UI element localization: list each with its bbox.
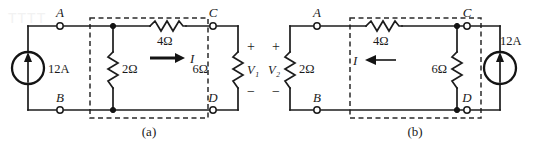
terminal-a-D — [210, 107, 216, 113]
terminal-a-A — [57, 23, 63, 29]
resistor-6ohm-a — [233, 52, 243, 88]
node-label-a-D: D — [207, 90, 218, 105]
junction-a-bottom — [110, 107, 115, 112]
voltage-plus-b: + — [272, 39, 280, 54]
circuit-diagram-canvas: 12A 2Ω 4Ω I 6Ω + V₁ — [0, 0, 534, 150]
junction-a-top — [110, 23, 115, 28]
node-label-b-B: B — [313, 90, 321, 105]
resistor-4ohm-label-a: 4Ω — [157, 34, 173, 48]
terminal-b-D — [464, 107, 470, 113]
resistor-4ohm-a — [150, 21, 186, 31]
voltage-label-a: V₁ — [247, 63, 259, 77]
voltage-minus-b: − — [272, 84, 280, 99]
terminal-a-C — [210, 23, 216, 29]
terminal-a-B — [57, 107, 63, 113]
current-source-b — [484, 52, 516, 84]
terminal-b-B — [314, 107, 320, 113]
voltage-plus-a: + — [247, 39, 255, 54]
circuit-figure: TTTT 12A — [0, 0, 534, 150]
node-label-a-B: B — [56, 90, 64, 105]
resistor-2ohm-label-a: 2Ω — [122, 62, 138, 76]
source-label-a: 12A — [48, 62, 70, 76]
node-label-b-D: D — [461, 90, 472, 105]
resistor-2ohm-label-b: 2Ω — [299, 62, 315, 76]
current-source-a — [12, 52, 44, 84]
node-label-b-C: C — [463, 5, 472, 20]
current-arrow-b — [365, 55, 396, 65]
node-label-a-A: A — [55, 5, 64, 20]
node-label-a-C: C — [209, 5, 218, 20]
voltage-label-b: V₂ — [268, 63, 281, 77]
dashed-box-a — [90, 18, 208, 118]
current-arrow-a — [150, 53, 185, 63]
caption-b: (b) — [407, 124, 422, 139]
resistor-6ohm-label-a: 6Ω — [192, 62, 208, 76]
node-label-b-A: A — [312, 5, 321, 20]
resistor-2ohm-b — [285, 52, 295, 88]
resistor-2ohm-a — [108, 52, 118, 88]
voltage-minus-a: − — [247, 84, 255, 99]
resistor-6ohm-b — [452, 52, 462, 88]
resistor-6ohm-label-b: 6Ω — [431, 62, 447, 76]
terminal-b-A — [314, 23, 320, 29]
caption-a: (a) — [142, 124, 156, 139]
source-label-b: 12A — [500, 34, 522, 48]
circuit-b: 2Ω + V₂ − 4Ω I 6Ω — [268, 5, 522, 139]
resistor-4ohm-b — [366, 21, 402, 31]
junction-b-top — [454, 23, 459, 28]
circuit-a: 12A 2Ω 4Ω I 6Ω + V₁ — [12, 5, 259, 139]
junction-b-bottom — [454, 107, 459, 112]
resistor-4ohm-label-b: 4Ω — [373, 34, 389, 48]
terminal-b-C — [464, 23, 470, 29]
current-label-b: I — [352, 53, 358, 68]
